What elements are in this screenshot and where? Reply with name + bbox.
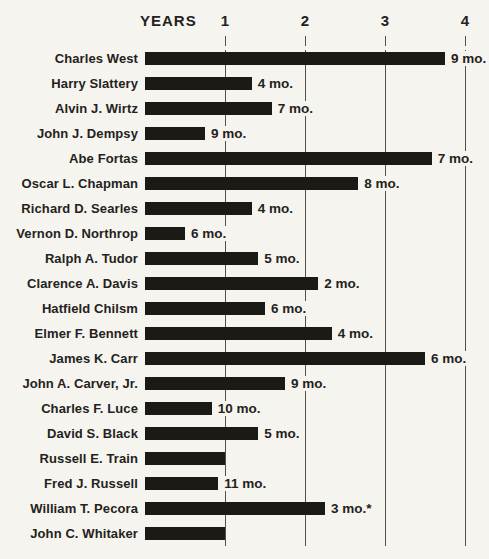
bar xyxy=(145,327,332,340)
bar-value-label: 5 mo. xyxy=(262,426,301,441)
bar xyxy=(145,77,252,90)
person-name: Alvin J. Wirtz xyxy=(0,102,138,115)
bar-value-label: 4 mo. xyxy=(336,326,375,341)
bar xyxy=(145,127,205,140)
bar-value-label: 9 mo. xyxy=(209,126,248,141)
axis-gridline xyxy=(465,50,466,546)
bar xyxy=(145,402,212,415)
tenure-bar-chart: YEARS 1234 Charles West 9 mo. Harry Slat… xyxy=(0,0,489,559)
bar-value-label: 9 mo. xyxy=(449,51,488,66)
bar-value-label: 3 mo.* xyxy=(329,501,374,516)
person-name: William T. Pecora xyxy=(0,502,138,515)
bar-value-label: 5 mo. xyxy=(262,251,301,266)
person-name: Charles West xyxy=(0,52,138,65)
bar xyxy=(145,152,432,165)
bar xyxy=(145,452,225,465)
bar-value-label: 10 mo. xyxy=(216,401,263,416)
bar-value-label: 7 mo. xyxy=(276,101,315,116)
bar-value-label: 4 mo. xyxy=(256,201,295,216)
person-name: Fred J. Russell xyxy=(0,477,138,490)
person-name: Harry Slattery xyxy=(0,77,138,90)
axis-title: YEARS xyxy=(140,12,197,29)
bar xyxy=(145,377,285,390)
person-name: Richard D. Searles xyxy=(0,202,138,215)
axis-tick xyxy=(385,36,386,46)
axis-tick xyxy=(225,36,226,46)
bar-value-label: 8 mo. xyxy=(362,176,401,191)
person-name: Vernon D. Northrop xyxy=(0,227,138,240)
axis-tick-label: 4 xyxy=(445,12,485,29)
axis-gridline xyxy=(225,50,226,546)
person-name: John A. Carver, Jr. xyxy=(0,377,138,390)
person-name: John J. Dempsy xyxy=(0,127,138,140)
person-name: Charles F. Luce xyxy=(0,402,138,415)
bar-value-label: 6 mo. xyxy=(429,351,468,366)
bar xyxy=(145,252,258,265)
bar xyxy=(145,502,325,515)
axis-tick-label: 1 xyxy=(205,12,245,29)
bar-value-label: 11 mo. xyxy=(222,476,268,491)
axis-tick-label: 3 xyxy=(365,12,405,29)
person-name: Russell E. Train xyxy=(0,452,138,465)
axis-tick-label: 2 xyxy=(285,12,325,29)
person-name: Hatfield Chilsm xyxy=(0,302,138,315)
bar-value-label: 4 mo. xyxy=(256,76,295,91)
axis-tick xyxy=(465,36,466,46)
bar-value-label: 6 mo. xyxy=(269,301,308,316)
person-name: Oscar L. Chapman xyxy=(0,177,138,190)
bar-value-label: 7 mo. xyxy=(436,151,475,166)
bar xyxy=(145,302,265,315)
bar xyxy=(145,102,272,115)
person-name: Clarence A. Davis xyxy=(0,277,138,290)
axis-tick xyxy=(305,36,306,46)
bar xyxy=(145,177,358,190)
bar xyxy=(145,477,218,490)
axis-gridline xyxy=(385,50,386,546)
person-name: Abe Fortas xyxy=(0,152,138,165)
bar xyxy=(145,427,258,440)
person-name: David S. Black xyxy=(0,427,138,440)
bar-value-label: 6 mo. xyxy=(189,226,228,241)
bar xyxy=(145,527,225,540)
bar xyxy=(145,202,252,215)
bar-value-label: 9 mo. xyxy=(289,376,328,391)
bar xyxy=(145,352,425,365)
bar xyxy=(145,277,318,290)
person-name: Ralph A. Tudor xyxy=(0,252,138,265)
bar xyxy=(145,227,185,240)
person-name: John C. Whitaker xyxy=(0,527,138,540)
bar-value-label: 2 mo. xyxy=(322,276,361,291)
axis-gridline xyxy=(305,50,306,546)
person-name: James K. Carr xyxy=(0,352,138,365)
bar xyxy=(145,52,445,65)
person-name: Elmer F. Bennett xyxy=(0,327,138,340)
